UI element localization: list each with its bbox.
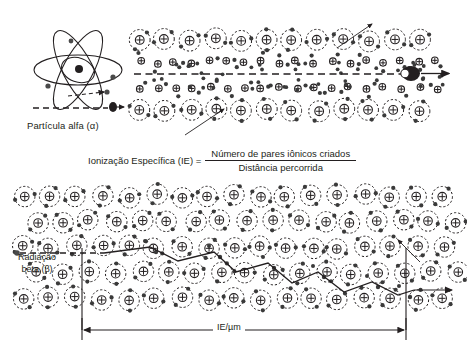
beta-caption-line-2: beta (β) — [6, 264, 68, 276]
beta-leader-lines — [398, 240, 420, 262]
formula-fraction: Número de pares iônicos criados Distânci… — [205, 148, 356, 173]
alpha-track — [134, 66, 449, 81]
beta-radiation-caption: Radiação beta (β) — [6, 252, 68, 275]
alpha-particle-caption: Partícula alfa (α) — [27, 120, 99, 131]
figure-canvas: Partícula alfa (α) Radiação beta (β) Ion… — [0, 0, 467, 351]
formula-left-side: Ionização Específica (IE) = — [88, 155, 201, 166]
beta-caption-line-1: Radiação — [6, 252, 68, 264]
alpha-particle-atom-model — [34, 24, 122, 116]
alpha-emission-tracks — [33, 89, 124, 112]
specific-ionization-formula: Ionização Específica (IE) = Número de pa… — [88, 148, 356, 173]
alpha-atom-field — [128, 27, 445, 123]
formula-numerator: Número de pares iônicos criados — [205, 148, 356, 160]
ie-per-micrometer-label: IE/µm — [213, 322, 245, 332]
beta-atom-field — [13, 182, 467, 313]
diagram-svg — [0, 0, 467, 351]
formula-denominator: Distância percorrida — [232, 161, 328, 173]
